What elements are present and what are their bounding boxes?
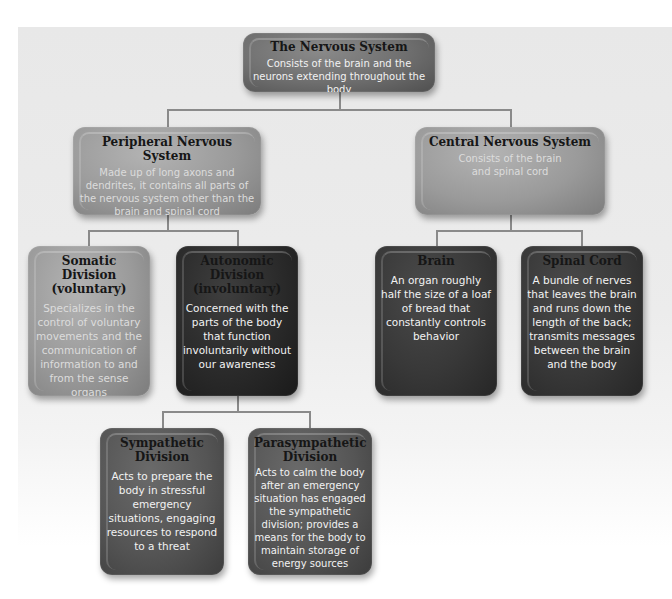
connector-to-autonomic — [237, 230, 239, 247]
connector-to-peripheral — [167, 109, 169, 128]
node-description: Made up of long axons and dendrites, it … — [79, 166, 255, 215]
node-title: Somatic Division (voluntary) — [34, 254, 144, 296]
node-description: Acts to calm the body after an emergency… — [254, 466, 366, 570]
node-central-nervous-system: Central Nervous System Consists of the b… — [415, 127, 605, 215]
node-description: Consists of the brain and the neurons ex… — [249, 57, 429, 92]
node-title: Brain — [381, 254, 491, 268]
node-title: Parasympathetic Division — [254, 436, 366, 464]
connector-to-central — [510, 109, 512, 128]
node-description: Acts to prepare the body in stressful em… — [106, 469, 218, 553]
node-description: Specializes in the control of voluntary … — [34, 301, 144, 396]
node-parasympathetic-division: Parasympathetic Division Acts to calm th… — [248, 428, 372, 575]
node-title: Autonomic Division (involuntary) — [182, 254, 292, 296]
connector-to-somatic — [88, 230, 90, 247]
node-peripheral-nervous-system: Peripheral Nervous System Made up of lon… — [73, 127, 261, 215]
node-title: Spinal Cord — [527, 254, 637, 268]
node-description: Concerned with the parts of the body tha… — [182, 301, 292, 371]
connector-peripheral-horizontal — [88, 230, 239, 232]
node-description: Consists of the brain and spinal cord — [421, 152, 599, 178]
connector-to-sympathetic — [162, 411, 164, 429]
node-description: An organ roughly half the size of a loaf… — [381, 273, 491, 343]
connector-to-parasympathetic — [309, 411, 311, 429]
node-nervous-system: The Nervous System Consists of the brain… — [243, 33, 435, 92]
node-title: Peripheral Nervous System — [79, 135, 255, 163]
node-description: A bundle of nerves that leaves the brain… — [527, 273, 637, 371]
node-spinal-cord: Spinal Cord A bundle of nerves that leav… — [521, 246, 643, 396]
connector-central-horizontal — [436, 230, 583, 232]
connector-to-spinal-cord — [581, 230, 583, 247]
connector-autonomic-horizontal — [162, 411, 311, 413]
node-sympathetic-division: Sympathetic Division Acts to prepare the… — [100, 428, 224, 575]
connector-to-brain — [436, 230, 438, 247]
connector-root-horizontal — [167, 109, 512, 111]
node-title: Sympathetic Division — [106, 436, 218, 464]
node-brain: Brain An organ roughly half the size of … — [375, 246, 497, 396]
node-somatic-division: Somatic Division (voluntary) Specializes… — [28, 246, 150, 396]
node-title: Central Nervous System — [421, 135, 599, 149]
node-autonomic-division: Autonomic Division (involuntary) Concern… — [176, 246, 298, 396]
node-title: The Nervous System — [249, 40, 429, 54]
